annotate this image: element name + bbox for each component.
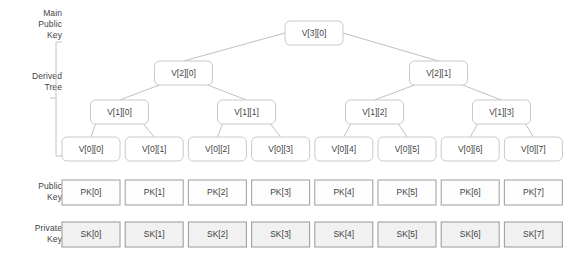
edge-v1-2-v0-4	[344, 124, 351, 137]
edge-v1-1-v0-2	[217, 124, 222, 137]
edge-v1-0-v0-1	[144, 124, 155, 137]
node-sk-7-label: SK[7]	[523, 229, 544, 239]
node-v1-2: V[1][2]	[346, 100, 404, 124]
node-v2-1: V[2][1]	[410, 61, 468, 85]
node-pk-6: PK[6]	[441, 180, 499, 205]
edge-root-v2-0	[184, 33, 286, 61]
edge-v2-0-v1-0	[120, 85, 160, 100]
edge-v2-1-v1-3	[463, 85, 502, 100]
node-sk-0: SK[0]	[62, 222, 120, 247]
node-sk-4: SK[4]	[315, 222, 373, 247]
node-v0-6-label: V[0][6]	[458, 144, 483, 154]
node-pk-5-label: PK[5]	[397, 187, 418, 197]
node-pk-3-label: PK[3]	[270, 187, 291, 197]
edge-v1-0-v0-0	[91, 124, 96, 137]
node-v0-2-label: V[0][2]	[205, 144, 230, 154]
node-group: V[0][0]V[0][1]V[0][2]V[0][3]V[0][4]V[0][…	[62, 21, 562, 247]
node-pk-0-label: PK[0]	[81, 187, 102, 197]
node-sk-6-label: SK[6]	[460, 229, 481, 239]
tree-graphic: V[0][0]V[0][1]V[0][2]V[0][3]V[0][4]V[0][…	[0, 0, 572, 264]
node-v0-3-label: V[0][3]	[268, 144, 293, 154]
node-v1-3-label: V[1][3]	[489, 107, 514, 117]
node-sk-5: SK[5]	[378, 222, 436, 247]
node-v0-6: V[0][6]	[441, 137, 499, 161]
node-v2-0: V[2][0]	[155, 61, 213, 85]
node-v0-5: V[0][5]	[378, 137, 436, 161]
node-pk-5: PK[5]	[378, 180, 436, 205]
derived-tree-bracket	[50, 42, 62, 156]
node-sk-7: SK[7]	[504, 222, 562, 247]
node-v0-5-label: V[0][5]	[395, 144, 420, 154]
node-pk-4: PK[4]	[315, 180, 373, 205]
node-v1-0-label: V[1][0]	[107, 107, 132, 117]
node-sk-2: SK[2]	[188, 222, 246, 247]
node-v1-0: V[1][0]	[91, 100, 149, 124]
node-sk-3-label: SK[3]	[270, 229, 291, 239]
bracket-spine	[56, 42, 62, 156]
edge-v2-0-v1-1	[208, 85, 247, 100]
node-v1-3: V[1][3]	[473, 100, 531, 124]
node-sk-3: SK[3]	[252, 222, 310, 247]
edge-v2-1-v1-2	[375, 85, 415, 100]
node-v0-2: V[0][2]	[188, 137, 246, 161]
node-sk-1: SK[1]	[125, 222, 183, 247]
node-v1-2-label: V[1][2]	[362, 107, 387, 117]
node-pk-7: PK[7]	[504, 180, 562, 205]
node-v1-1: V[1][1]	[218, 100, 276, 124]
node-sk-0-label: SK[0]	[81, 229, 102, 239]
node-sk-6: SK[6]	[441, 222, 499, 247]
node-sk-4-label: SK[4]	[333, 229, 354, 239]
edge-v1-1-v0-3	[271, 124, 281, 137]
diagram-canvas: Main Public Key Derived Tree Public Key …	[0, 0, 572, 264]
node-v0-7: V[0][7]	[504, 137, 562, 161]
edge-root-v2-1	[343, 33, 439, 61]
node-pk-6-label: PK[6]	[460, 187, 481, 197]
node-v0-7-label: V[0][7]	[521, 144, 546, 154]
node-v1-1-label: V[1][1]	[234, 107, 259, 117]
edge-v1-3-v0-6	[470, 124, 477, 137]
node-root-label: V[3][0]	[302, 28, 327, 38]
node-sk-2-label: SK[2]	[207, 229, 228, 239]
node-v0-0-label: V[0][0]	[79, 144, 104, 154]
node-sk-1-label: SK[1]	[144, 229, 165, 239]
edge-v1-3-v0-7	[526, 124, 534, 137]
node-v0-4-label: V[0][4]	[332, 144, 357, 154]
node-pk-1: PK[1]	[125, 180, 183, 205]
node-pk-1-label: PK[1]	[144, 187, 165, 197]
node-pk-7-label: PK[7]	[523, 187, 544, 197]
node-v2-1-label: V[2][1]	[426, 68, 451, 78]
edge-v1-2-v0-5	[399, 124, 408, 137]
node-pk-2: PK[2]	[188, 180, 246, 205]
node-v0-1: V[0][1]	[125, 137, 183, 161]
node-root: V[3][0]	[285, 21, 343, 45]
node-pk-0: PK[0]	[62, 180, 120, 205]
node-v0-1-label: V[0][1]	[142, 144, 167, 154]
node-v0-0: V[0][0]	[62, 137, 120, 161]
node-pk-2-label: PK[2]	[207, 187, 228, 197]
node-pk-4-label: PK[4]	[333, 187, 354, 197]
node-v0-3: V[0][3]	[252, 137, 310, 161]
node-pk-3: PK[3]	[252, 180, 310, 205]
node-v2-0-label: V[2][0]	[171, 68, 196, 78]
node-v0-4: V[0][4]	[315, 137, 373, 161]
node-sk-5-label: SK[5]	[397, 229, 418, 239]
